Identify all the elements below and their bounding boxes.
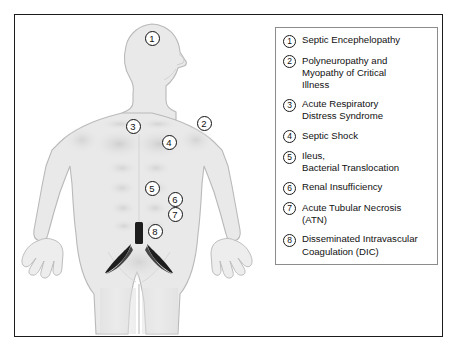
body-marker-4[interactable]: 4 — [162, 135, 177, 150]
legend-label-6: Renal Insufficiency — [302, 181, 382, 193]
legend-item-3[interactable]: 3Acute Respiratory Distress Syndrome — [283, 98, 431, 122]
shoulder-shade-left — [64, 126, 100, 154]
abdomen-shade-3r — [141, 200, 169, 216]
sepsis-organ-dysfunction-figure: 12345678 1Septic Encephelopathy2Polyneur… — [0, 0, 459, 352]
abdomen-shade-4l — [111, 219, 137, 233]
body-marker-1[interactable]: 1 — [145, 31, 160, 46]
legend-bullet-4: 4 — [283, 130, 296, 143]
body-marker-3[interactable]: 3 — [126, 119, 141, 134]
legend-label-8: Disseminated Intravascular Coagulation (… — [302, 233, 418, 257]
legend-label-1: Septic Encephelopathy — [302, 34, 400, 46]
legend-item-1[interactable]: 1Septic Encephelopathy — [283, 34, 431, 48]
legend-bullet-6: 6 — [283, 182, 296, 195]
body-marker-6[interactable]: 6 — [168, 192, 183, 207]
legend-item-2[interactable]: 2Polyneuropathy and Myopathy of Critical… — [283, 55, 431, 92]
legend-label-2: Polyneuropathy and Myopathy of Critical … — [302, 55, 387, 92]
body-silhouette-svg — [16, 16, 260, 336]
legend-label-5: Ileus, Bacterial Translocation — [302, 150, 399, 174]
shoulder-shade-right — [178, 126, 214, 154]
legend-bullet-1: 1 — [283, 35, 296, 48]
body-marker-5[interactable]: 5 — [145, 181, 160, 196]
legend-label-3: Acute Respiratory Distress Syndrome — [302, 98, 383, 122]
abdomen-shade-2l — [107, 180, 137, 196]
clavicle-shade-right — [138, 118, 178, 130]
leg-shade-left — [100, 288, 136, 334]
legend-label-4: Septic Shock — [302, 130, 358, 142]
body-marker-2[interactable]: 2 — [197, 116, 212, 131]
legend-list: 1Septic Encephelopathy2Polyneuropathy an… — [283, 34, 431, 258]
legend-bullet-3: 3 — [283, 99, 296, 112]
abdomen-shade-3l — [109, 200, 137, 216]
left-hand-shape — [22, 239, 63, 279]
legend-bullet-2: 2 — [283, 55, 296, 68]
legend-label-7: Acute Tubular Necrosis (ATN) — [302, 202, 401, 226]
right-hand-shape — [211, 239, 252, 279]
leg-shade-right — [142, 288, 178, 334]
legend-bullet-5: 5 — [283, 151, 296, 164]
human-body-illustration: 12345678 — [16, 16, 260, 336]
body-marker-8[interactable]: 8 — [148, 224, 163, 239]
legend-bullet-7: 7 — [283, 202, 296, 215]
legend-item-6[interactable]: 6Renal Insufficiency — [283, 181, 431, 195]
legend-bullet-8: 8 — [283, 234, 296, 247]
body-marker-7[interactable]: 7 — [168, 207, 183, 222]
legend-item-8[interactable]: 8Disseminated Intravascular Coagulation … — [283, 233, 431, 257]
legend-item-5[interactable]: 5Ileus, Bacterial Translocation — [283, 150, 431, 174]
legend-panel: 1Septic Encephelopathy2Polyneuropathy an… — [275, 27, 438, 265]
abdomen-shade-1r — [140, 160, 172, 176]
abdomen-shade-1l — [106, 160, 138, 176]
chest-shade-right — [133, 129, 185, 159]
legend-item-7[interactable]: 7Acute Tubular Necrosis (ATN) — [283, 202, 431, 226]
legend-item-4[interactable]: 4Septic Shock — [283, 130, 431, 144]
aorta-trunk — [135, 222, 143, 244]
